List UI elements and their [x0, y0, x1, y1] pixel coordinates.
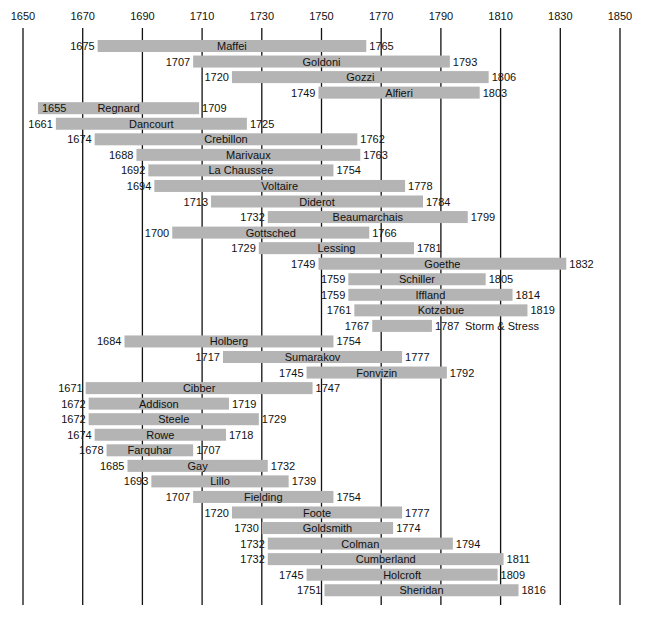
start-year-label: 1759 — [321, 289, 345, 301]
start-year-label: 1674 — [67, 429, 91, 441]
row-cibber: 16711747Cibber — [58, 382, 340, 394]
row-foote: 17201777Foote — [204, 507, 429, 519]
end-year-label: 1811 — [507, 553, 531, 565]
end-year-label: 1754 — [336, 335, 360, 347]
name-label: Voltaire — [261, 180, 298, 192]
end-year-label: 1781 — [417, 242, 441, 254]
end-year-label: 1718 — [229, 429, 253, 441]
start-year-label: 1749 — [291, 258, 315, 270]
end-year-label: 1787 — [435, 320, 459, 332]
name-label: Sheridan — [399, 584, 443, 596]
name-label: Steele — [158, 413, 189, 425]
tick-label-1690: 1690 — [130, 10, 154, 22]
start-year-label: 1674 — [67, 133, 91, 145]
start-year-label: 1717 — [196, 351, 220, 363]
row-lessing: 17291781Lessing — [231, 242, 441, 254]
end-year-label: 1799 — [471, 211, 495, 223]
row-holcroft: 17451809Holcroft — [279, 569, 525, 581]
row-maffei: 16751765Maffei — [70, 40, 394, 52]
row-farquhar: 16781707Farquhar — [79, 444, 221, 456]
end-year-label: 1747 — [316, 382, 340, 394]
name-label: Lillo — [210, 475, 230, 487]
name-label: Iffland — [416, 289, 446, 301]
end-year-label: 1803 — [483, 87, 507, 99]
end-year-label: 1732 — [271, 460, 295, 472]
tick-label-1810: 1810 — [488, 10, 512, 22]
tick-label-1770: 1770 — [369, 10, 393, 22]
name-label: Goldoni — [303, 56, 341, 68]
row-lillo: 16931739Lillo — [124, 475, 316, 487]
name-label: Dancourt — [129, 118, 174, 130]
row-rowe: 16741718Rowe — [67, 429, 253, 441]
start-year-label: 1700 — [145, 227, 169, 239]
start-year-label: 1655 — [42, 102, 66, 114]
row-cumberland: 17321811Cumberland — [240, 553, 530, 565]
row-gottsched: 17001766Gottsched — [145, 227, 397, 239]
tick-label-1830: 1830 — [548, 10, 572, 22]
start-year-label: 1672 — [61, 398, 85, 410]
end-year-label: 1774 — [396, 522, 420, 534]
row-gozzi: 17201806Gozzi — [204, 71, 516, 83]
name-label: Cibber — [183, 382, 216, 394]
end-year-label: 1778 — [408, 180, 432, 192]
tick-label-1710: 1710 — [190, 10, 214, 22]
timeline-chart: 1650167016901710173017501770179018101830… — [0, 0, 645, 621]
row-la-chaussee: 16921754La Chaussee — [121, 164, 361, 176]
start-year-label: 1732 — [240, 538, 264, 550]
end-year-label: 1832 — [569, 258, 593, 270]
row-voltaire: 16941778Voltaire — [127, 180, 433, 192]
start-year-label: 1694 — [127, 180, 151, 192]
name-label: Goethe — [424, 258, 460, 270]
start-year-label: 1693 — [124, 475, 148, 487]
name-label: Kotzebue — [418, 304, 464, 316]
name-label: Fonvizin — [356, 367, 397, 379]
tick-label-1730: 1730 — [250, 10, 274, 22]
end-year-label: 1793 — [453, 56, 477, 68]
start-year-label: 1729 — [231, 242, 255, 254]
end-year-label: 1777 — [405, 351, 429, 363]
end-year-label: 1729 — [262, 413, 286, 425]
name-label: Alfieri — [385, 87, 413, 99]
annotation-label: Storm & Stress — [465, 320, 539, 332]
row-addison: 16721719Addison — [61, 398, 256, 410]
x-axis-tick-labels: 1650167016901710173017501770179018101830… — [11, 10, 632, 22]
start-year-label: 1720 — [204, 71, 228, 83]
end-year-label: 1819 — [530, 304, 554, 316]
end-year-label: 1792 — [450, 367, 474, 379]
name-label: Regnard — [97, 102, 139, 114]
start-year-label: 1661 — [28, 118, 52, 130]
start-year-label: 1678 — [79, 444, 103, 456]
row-regnard: 16551709Regnard — [38, 102, 227, 114]
end-year-label: 1794 — [456, 538, 480, 550]
row-fonvizin: 17451792Fonvizin — [279, 367, 474, 379]
start-year-label: 1713 — [184, 196, 208, 208]
row-kotzebue: 17611819Kotzebue — [327, 304, 555, 316]
name-label: Gozzi — [346, 71, 374, 83]
start-year-label: 1707 — [166, 56, 190, 68]
row-beaumarchais: 17321799Beaumarchais — [240, 211, 495, 223]
name-label: Lessing — [317, 242, 355, 254]
row-holberg: 16841754Holberg — [97, 335, 361, 347]
name-label: Foote — [303, 507, 331, 519]
end-year-label: 1763 — [363, 149, 387, 161]
bar-storm-and-stress — [372, 320, 432, 332]
end-year-label: 1719 — [232, 398, 256, 410]
end-year-label: 1814 — [516, 289, 540, 301]
row-diderot: 17131784Diderot — [184, 196, 451, 208]
row-colman: 17321794Colman — [240, 538, 480, 550]
name-label: Addison — [139, 398, 179, 410]
start-year-label: 1749 — [291, 87, 315, 99]
end-year-label: 1709 — [202, 102, 226, 114]
row-fielding: 17071754Fielding — [166, 491, 361, 503]
end-year-label: 1784 — [426, 196, 450, 208]
tick-label-1750: 1750 — [309, 10, 333, 22]
name-label: Holberg — [210, 335, 249, 347]
name-label: Maffei — [217, 40, 247, 52]
end-year-label: 1754 — [336, 491, 360, 503]
end-year-label: 1762 — [360, 133, 384, 145]
end-year-label: 1816 — [522, 584, 546, 596]
row-dancourt: 16611725Dancourt — [28, 118, 274, 130]
name-label: Marivaux — [226, 149, 271, 161]
tick-label-1650: 1650 — [11, 10, 35, 22]
end-year-label: 1805 — [489, 273, 513, 285]
